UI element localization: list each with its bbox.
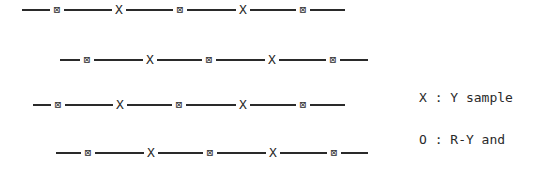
y-sample-marker: X [113, 2, 125, 18]
ry-by-sample-marker: ⊠ [204, 145, 216, 161]
ry-by-sample-marker: ⊠ [51, 2, 63, 18]
legend-ry-by-sample: O : R-Y and [419, 133, 529, 147]
y-sample-marker: X [237, 2, 249, 18]
line-segment [22, 9, 50, 11]
y-sample-marker: X [144, 52, 156, 68]
line-segment [65, 104, 113, 106]
legend: X : Y sample O : R-Y and B-Y sample [419, 63, 529, 175]
line-segment [310, 104, 345, 106]
sample-row-3: ⊠X⊠X⊠ [0, 95, 380, 115]
line-segment [95, 152, 144, 154]
line-segment [217, 152, 266, 154]
line-segment [280, 152, 327, 154]
y-sample-marker: X [114, 97, 126, 113]
ry-by-sample-marker: ⊠ [297, 97, 309, 113]
line-segment [279, 59, 326, 61]
line-segment [127, 104, 172, 106]
line-segment [187, 9, 236, 11]
ry-by-sample-marker: ⊠ [327, 52, 339, 68]
line-segment [56, 152, 81, 154]
line-segment [186, 104, 236, 106]
line-segment [60, 59, 80, 61]
ry-by-sample-marker: ⊠ [52, 97, 64, 113]
line-segment [216, 59, 265, 61]
sampling-pattern-diagram: ⊠X⊠X⊠⊠X⊠X⊠⊠X⊠X⊠⊠X⊠X⊠ [0, 0, 380, 175]
y-sample-marker: X [266, 52, 278, 68]
ry-by-sample-marker: ⊠ [297, 2, 309, 18]
line-segment [157, 59, 202, 61]
y-sample-marker: X [237, 97, 249, 113]
line-segment [250, 9, 296, 11]
line-segment [64, 9, 112, 11]
ry-by-sample-marker: ⊠ [328, 145, 340, 161]
ry-by-sample-marker: ⊠ [174, 2, 186, 18]
line-segment [250, 104, 296, 106]
y-sample-marker: X [145, 145, 157, 161]
line-segment [33, 104, 51, 106]
sample-row-4: ⊠X⊠X⊠ [0, 143, 380, 163]
line-segment [310, 9, 345, 11]
ry-by-sample-marker: ⊠ [173, 97, 185, 113]
line-segment [340, 59, 368, 61]
ry-by-sample-marker: ⊠ [203, 52, 215, 68]
sample-row-2: ⊠X⊠X⊠ [0, 50, 380, 70]
line-segment [158, 152, 203, 154]
sample-row-1: ⊠X⊠X⊠ [0, 0, 380, 20]
ry-by-sample-marker: ⊠ [81, 52, 93, 68]
line-segment [94, 59, 143, 61]
ry-by-sample-marker: ⊠ [82, 145, 94, 161]
y-sample-marker: X [267, 145, 279, 161]
line-segment [341, 152, 368, 154]
legend-y-sample: X : Y sample [419, 91, 529, 105]
line-segment [126, 9, 173, 11]
